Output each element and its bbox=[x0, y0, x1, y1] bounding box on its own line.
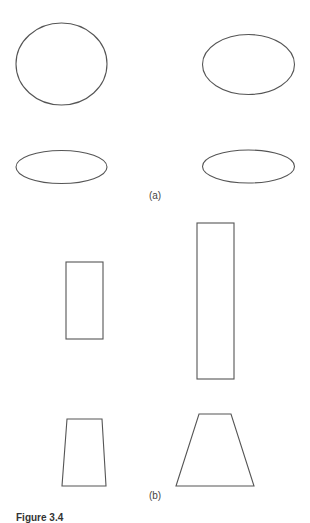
panel-a-label: (a) bbox=[149, 190, 161, 201]
trapezoid-narrow bbox=[62, 419, 106, 486]
ellipse-top-right bbox=[203, 35, 295, 95]
panel-a-shapes bbox=[16, 23, 295, 184]
rectangle-tall bbox=[197, 223, 234, 379]
panel-b-label: (b) bbox=[149, 490, 161, 501]
figure-caption: Figure 3.4 bbox=[16, 512, 63, 523]
rectangle-short bbox=[66, 262, 103, 339]
ellipse-bottom-left bbox=[16, 151, 107, 184]
ellipse-bottom-right bbox=[203, 150, 295, 183]
panel-b-shapes bbox=[62, 223, 254, 486]
trapezoid-wide bbox=[176, 414, 254, 486]
ellipse-top-left bbox=[16, 23, 107, 105]
